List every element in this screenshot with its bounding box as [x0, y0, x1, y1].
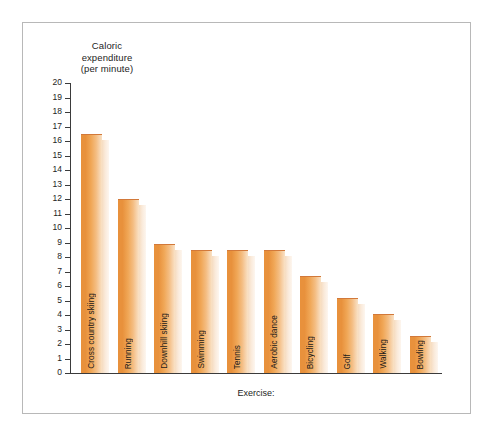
- y-tick-mark: [65, 98, 70, 99]
- y-tick-label: 18: [40, 106, 62, 116]
- bar-shadow: [285, 256, 292, 373]
- bar-group[interactable]: Tennis: [227, 83, 255, 373]
- bar-shadow: [102, 140, 109, 373]
- y-axis-title: Caloric expenditure (per minute): [47, 40, 167, 75]
- bar-group[interactable]: Golf: [337, 83, 365, 373]
- y-tick-mark: [65, 243, 70, 244]
- y-tick-label: 20: [40, 77, 62, 87]
- bar[interactable]: Bowling: [410, 336, 431, 373]
- bar-category-label: Swimming: [191, 330, 212, 369]
- y-tick-label: 0: [40, 367, 62, 377]
- bar[interactable]: Running: [118, 199, 139, 373]
- bar[interactable]: Downhill skiing: [154, 244, 175, 373]
- bar-shadow: [248, 256, 255, 373]
- bar-category-label: Bicycling: [300, 336, 321, 369]
- y-tick-mark: [65, 315, 70, 316]
- y-tick-label: 5: [40, 295, 62, 305]
- bar-group[interactable]: Aerobic dance: [264, 83, 292, 373]
- bar-category-label: Downhill skiing: [154, 313, 175, 369]
- bar-shadow: [175, 250, 182, 373]
- x-axis-line: [70, 373, 442, 374]
- y-tick-label: 13: [40, 179, 62, 189]
- y-tick-mark: [65, 301, 70, 302]
- y-tick-label: 9: [40, 237, 62, 247]
- bar[interactable]: Tennis: [227, 250, 248, 373]
- bar[interactable]: Golf: [337, 298, 358, 373]
- plot-area: 20191817161514131211109876543210 Cross c…: [70, 83, 450, 373]
- bar-shadow: [358, 304, 365, 373]
- y-tick-label: 17: [40, 121, 62, 131]
- y-tick-label: 3: [40, 324, 62, 334]
- y-tick-label: 10: [40, 222, 62, 232]
- bar-shadow: [394, 320, 401, 373]
- bar-category-label: Tennis: [227, 345, 248, 369]
- bar-group[interactable]: Bicycling: [300, 83, 328, 373]
- y-tick-mark: [65, 141, 70, 142]
- chart-frame: Caloric expenditure (per minute) 2019181…: [22, 22, 471, 414]
- y-tick-mark: [65, 228, 70, 229]
- y-tick-mark: [65, 272, 70, 273]
- y-tick-label: 14: [40, 164, 62, 174]
- y-tick-mark: [65, 170, 70, 171]
- y-tick-mark: [65, 214, 70, 215]
- bar-shadow: [431, 342, 438, 373]
- y-tick-mark: [65, 359, 70, 360]
- y-axis-title-line-2: expenditure: [47, 52, 167, 64]
- bar[interactable]: Swimming: [191, 250, 212, 373]
- y-tick-mark: [65, 286, 70, 287]
- y-tick-label: 15: [40, 150, 62, 160]
- y-tick-label: 16: [40, 135, 62, 145]
- bar-category-label: Walking: [373, 339, 394, 369]
- y-tick-mark: [65, 83, 70, 84]
- y-axis-title-line-1: Caloric: [47, 40, 167, 52]
- bar-category-label: Cross country skiing: [81, 293, 102, 369]
- bar-group[interactable]: Swimming: [191, 83, 219, 373]
- y-tick-mark: [65, 373, 70, 374]
- y-axis-title-line-3: (per minute): [47, 63, 167, 75]
- y-tick-mark: [65, 156, 70, 157]
- bar-category-label: Running: [118, 338, 139, 369]
- bar-category-label: Bowling: [410, 340, 431, 369]
- bar-group[interactable]: Running: [118, 83, 146, 373]
- y-tick-mark: [65, 185, 70, 186]
- bar-series: Cross country skiingRunningDownhill skii…: [71, 83, 442, 373]
- x-axis-title: Exercise:: [70, 388, 442, 398]
- y-tick-label: 6: [40, 280, 62, 290]
- y-tick: 0: [70, 373, 75, 374]
- y-tick-label: 8: [40, 251, 62, 261]
- bar-group[interactable]: Walking: [373, 83, 401, 373]
- y-tick-mark: [65, 127, 70, 128]
- bar-shadow: [321, 282, 328, 373]
- y-tick-mark: [65, 257, 70, 258]
- bar-group[interactable]: Bowling: [410, 83, 438, 373]
- y-tick-label: 7: [40, 266, 62, 276]
- bar[interactable]: Cross country skiing: [81, 134, 102, 373]
- y-tick-label: 1: [40, 353, 62, 363]
- y-tick-label: 2: [40, 338, 62, 348]
- bar-shadow: [212, 256, 219, 373]
- bar[interactable]: Bicycling: [300, 276, 321, 373]
- y-tick-label: 19: [40, 92, 62, 102]
- bar[interactable]: Walking: [373, 314, 394, 373]
- bar-group[interactable]: Cross country skiing: [81, 83, 109, 373]
- bar-shadow: [139, 205, 146, 373]
- y-tick-label: 4: [40, 309, 62, 319]
- bar-category-label: Golf: [337, 354, 358, 369]
- y-tick-mark: [65, 344, 70, 345]
- bar-category-label: Aerobic dance: [264, 315, 285, 369]
- y-tick-label: 11: [40, 208, 62, 218]
- y-tick-mark: [65, 199, 70, 200]
- bar[interactable]: Aerobic dance: [264, 250, 285, 373]
- y-tick-mark: [65, 330, 70, 331]
- y-tick-mark: [65, 112, 70, 113]
- y-tick-label: 12: [40, 193, 62, 203]
- bar-group[interactable]: Downhill skiing: [154, 83, 182, 373]
